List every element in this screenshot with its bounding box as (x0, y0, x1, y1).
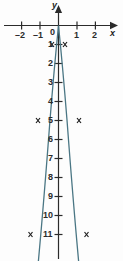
y-tick-label-neg7: 7 (48, 154, 53, 163)
y-axis-label: y (52, 1, 57, 10)
marker-point-5 (29, 232, 33, 237)
y-tick-label-neg1: 1 (48, 40, 53, 49)
marker-point-4 (77, 118, 81, 123)
marker-point-3 (36, 118, 40, 123)
marker-point-2 (63, 42, 67, 47)
y-tick-label-neg6: 6 (48, 135, 53, 144)
x-tick-label-neg2: –2 (15, 31, 25, 40)
y-tick-label-neg4: 4 (48, 97, 53, 106)
y-tick-label-neg2: 2 (48, 59, 53, 68)
y-tick-label-neg5: 5 (48, 116, 53, 125)
graph-figure: –2 –1 1 2 0 y x 1 2 3 4 5 6 7 8 9 10 11 (0, 0, 123, 261)
x-tick-label-1: 1 (74, 31, 79, 40)
origin-label: 0 (50, 28, 55, 37)
y-tick-label-neg11: 11 (43, 230, 53, 239)
y-tick-label-neg10: 10 (43, 211, 53, 220)
y-tick-label-neg8: 8 (48, 173, 53, 182)
y-axis (55, 5, 62, 259)
x-tick-label-2: 2 (92, 31, 97, 40)
y-tick-label-neg3: 3 (48, 78, 53, 87)
marker-point-6 (85, 232, 89, 237)
x-axis-label: x (110, 29, 115, 38)
x-tick-label-neg1: –1 (33, 31, 43, 40)
y-tick-label-neg9: 9 (48, 192, 53, 201)
